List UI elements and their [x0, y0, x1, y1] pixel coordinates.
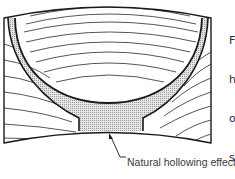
- hollowing-band: [8, 18, 208, 131]
- side-text-line: s: [229, 151, 235, 164]
- bowl-cross-section-diagram: [0, 0, 235, 179]
- side-text-line: o: [229, 112, 235, 125]
- natural-hollowing-label: Natural hollowing effect: [127, 156, 235, 168]
- leader-arrow: [109, 133, 126, 157]
- truncated-side-text: F h o s in b u: [229, 8, 235, 179]
- side-text-line: F: [229, 34, 235, 47]
- side-text-line: h: [229, 73, 235, 86]
